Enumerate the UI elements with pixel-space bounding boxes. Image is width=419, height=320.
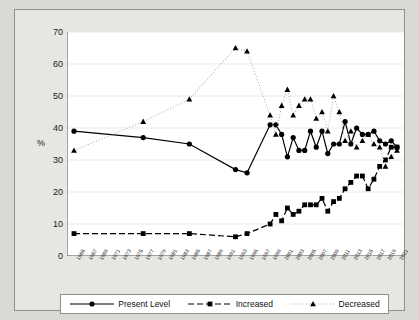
data-point-circle [314, 145, 319, 150]
data-point-circle [337, 141, 342, 146]
data-point-square [233, 234, 238, 239]
y-tick-label: 30 [41, 155, 63, 165]
y-tick-label: 0 [41, 251, 63, 261]
data-point-square [268, 222, 273, 227]
series-line-decreased [74, 48, 397, 166]
data-point-square [360, 174, 365, 179]
y-tick-label: 60 [41, 59, 63, 69]
data-point-square [285, 206, 290, 211]
data-point-circle [141, 135, 146, 140]
data-point-triangle [267, 112, 273, 117]
data-point-square [308, 202, 313, 207]
chart-frame: % 010203040506070 1965196719691971197319… [14, 9, 405, 311]
legend-swatch-square-icon [187, 298, 233, 310]
data-point-triangle [313, 115, 319, 120]
y-tick-label: 50 [41, 91, 63, 101]
data-point-circle [325, 151, 330, 156]
data-point-circle [319, 129, 324, 134]
data-point-square [279, 218, 284, 223]
data-point-triangle [290, 112, 296, 117]
data-point-circle [268, 122, 273, 127]
data-point-triangle [285, 87, 291, 92]
y-axis-tick-labels: 010203040506070 [37, 32, 63, 256]
data-point-circle [302, 148, 307, 153]
legend-label: Present Level [118, 299, 170, 309]
legend-swatch-triangle-icon [290, 298, 336, 310]
data-point-circle [279, 132, 284, 137]
data-point-square [377, 164, 382, 169]
series-line-present-level [74, 122, 397, 173]
data-point-square [291, 212, 296, 217]
data-point-circle [371, 129, 376, 134]
y-tick-label: 10 [41, 219, 63, 229]
legend-label: Increased [236, 299, 273, 309]
data-point-circle [71, 129, 76, 134]
data-point-square [325, 209, 330, 214]
legend-label: Decreased [339, 299, 380, 309]
data-point-triangle [308, 96, 314, 101]
data-point-square [343, 186, 348, 191]
legend-item-increased: Increased [187, 298, 273, 310]
data-point-triangle [233, 45, 239, 50]
data-point-circle [342, 119, 347, 124]
data-point-triangle [383, 163, 389, 168]
data-point-circle [296, 148, 301, 153]
data-point-triangle [279, 103, 285, 108]
data-point-square [297, 209, 302, 214]
data-point-circle [377, 138, 382, 143]
data-point-square [245, 231, 250, 236]
data-point-triangle [140, 119, 146, 124]
data-point-circle [360, 132, 365, 137]
plot-svg [67, 32, 404, 256]
data-point-circle [308, 129, 313, 134]
data-point-square [72, 231, 77, 236]
y-tick-label: 40 [41, 123, 63, 133]
chart-root: % 010203040506070 1965196719691971197319… [0, 0, 419, 320]
data-point-circle [233, 167, 238, 172]
data-point-circle [348, 141, 353, 146]
legend-item-decreased: Decreased [290, 298, 380, 310]
data-point-triangle [325, 128, 331, 133]
data-point-circle [291, 135, 296, 140]
data-point-square [331, 199, 336, 204]
y-tick-label: 70 [41, 27, 63, 37]
data-point-circle [187, 141, 192, 146]
data-point-circle [331, 141, 336, 146]
x-axis-tick-labels: 1965196719691971197319751977197919811983… [67, 257, 404, 291]
data-point-circle [285, 154, 290, 159]
data-point-circle [244, 170, 249, 175]
data-point-square [372, 177, 377, 182]
data-point-triangle [336, 109, 342, 114]
plot-area [67, 32, 404, 256]
data-point-triangle [377, 144, 383, 149]
legend-item-present-level: Present Level [69, 298, 170, 310]
data-point-triangle [342, 138, 348, 143]
data-point-square [320, 196, 325, 201]
data-point-square [187, 231, 192, 236]
data-point-triangle [296, 103, 302, 108]
data-point-triangle [273, 131, 279, 136]
data-point-square [337, 196, 342, 201]
data-point-square [366, 186, 371, 191]
data-point-square [354, 174, 359, 179]
data-point-square [302, 202, 307, 207]
data-point-square [348, 180, 353, 185]
data-point-triangle [371, 141, 377, 146]
data-point-square [273, 212, 278, 217]
data-point-triangle [319, 109, 325, 114]
data-point-triangle [71, 147, 77, 152]
data-point-circle [389, 138, 394, 143]
data-point-triangle [244, 48, 250, 53]
data-point-square [389, 145, 394, 150]
data-point-triangle [348, 128, 354, 133]
data-point-square [141, 231, 146, 236]
data-point-square [314, 202, 319, 207]
y-tick-label: 20 [41, 187, 63, 197]
chart-legend: Present LevelIncreasedDecreased [60, 294, 389, 314]
data-point-circle [354, 125, 359, 130]
legend-swatch-circle-icon [69, 298, 115, 310]
data-point-triangle [302, 96, 308, 101]
data-point-circle [383, 141, 388, 146]
